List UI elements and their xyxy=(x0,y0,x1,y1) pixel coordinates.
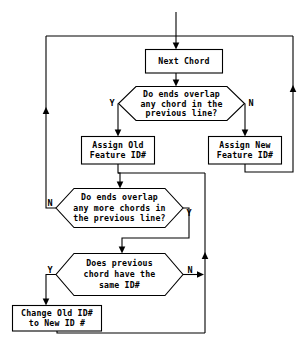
overlap-any-chord-label-line-2: any chord in the xyxy=(140,99,222,109)
arrowhead-right-inner-rail-up xyxy=(202,252,209,259)
flowchart-svg: Next Chord Do ends overlap any chord in … xyxy=(0,0,308,349)
arrowhead-assign-old-in xyxy=(115,130,122,137)
branch-label-overlap-any-chord-no: N xyxy=(248,98,253,108)
assign-old-feature-id-label-line-2: Feature ID# xyxy=(90,150,146,160)
change-old-id-to-new-id-label-line-2: to New ID # xyxy=(29,318,85,328)
branch-label-overlap-more-chords-yes: Y xyxy=(186,208,192,218)
arrowhead-assign-new-in xyxy=(242,130,249,137)
overlap-more-chords-label-line-3: the previous line? xyxy=(73,213,165,223)
branch-label-previous-chord-same-id-no: N xyxy=(187,265,192,275)
next-chord-label-line-1: Next Chord xyxy=(158,56,209,66)
previous-chord-same-id-label-line-2: chord have the xyxy=(84,269,156,279)
arrowhead-left-rail-up xyxy=(43,107,50,114)
branch-label-overlap-more-chords-no: N xyxy=(47,198,52,208)
overlap-more-chords-label-line-1: Do ends overlap xyxy=(81,192,158,202)
arrowhead-decision3-in xyxy=(119,247,126,254)
assign-new-feature-id-label-line-2: Feature ID# xyxy=(217,150,273,160)
arrowhead-decision1-in xyxy=(173,80,180,87)
overlap-more-chords-label-line-2: any more chords in xyxy=(73,203,165,213)
node-change-old-id-to-new-id[interactable]: Change Old ID# to New ID # xyxy=(13,306,102,332)
node-overlap-any-chord[interactable]: Do ends overlap any chord in the previou… xyxy=(119,87,245,121)
branch-label-previous-chord-same-id-yes: Y xyxy=(47,265,53,275)
arrowhead-decision2-in xyxy=(117,182,124,189)
node-overlap-more-chords[interactable]: Do ends overlap any more chords in the p… xyxy=(56,189,183,228)
node-assign-new-feature-id[interactable]: Assign New Feature ID# xyxy=(209,137,282,165)
overlap-any-chord-label-line-1: Do ends overlap xyxy=(143,89,220,99)
node-assign-old-feature-id[interactable]: Assign Old Feature ID# xyxy=(82,137,155,165)
assign-old-feature-id-label-line-1: Assign Old xyxy=(92,140,143,150)
node-previous-chord-same-id[interactable]: Does previous chord have the same ID# xyxy=(56,254,183,296)
previous-chord-same-id-label-line-3: same ID# xyxy=(99,280,140,290)
arrowhead-right-rail-up xyxy=(290,85,297,92)
branch-label-overlap-any-chord-yes: Y xyxy=(109,98,115,108)
connector-decision2-no xyxy=(46,36,56,208)
arrowhead-change-box-in xyxy=(43,299,50,306)
overlap-any-chord-label-line-3: previous line? xyxy=(146,108,218,118)
node-next-chord[interactable]: Next Chord xyxy=(146,50,223,74)
assign-new-feature-id-label-line-1: Assign New xyxy=(219,140,270,150)
flowchart-canvas: Next Chord Do ends overlap any chord in … xyxy=(0,0,308,349)
change-old-id-to-new-id-label-line-1: Change Old ID# xyxy=(21,308,93,318)
arrowhead-entry xyxy=(173,43,180,50)
arrowhead-decision3-no-end xyxy=(197,271,204,278)
previous-chord-same-id-label-line-1: Does previous xyxy=(86,258,153,268)
